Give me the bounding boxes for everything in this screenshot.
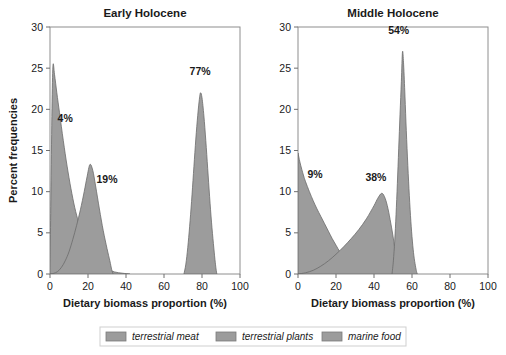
- y-tick-label: 15: [279, 144, 291, 156]
- y-tick-label: 30: [31, 21, 43, 33]
- y-tick-label: 30: [279, 21, 291, 33]
- y-tick-label: 25: [31, 62, 43, 74]
- legend-swatch-terrestrial-meat: [106, 332, 126, 341]
- y-tick-label: 20: [31, 103, 43, 115]
- legend-label-marine-food: marine food: [348, 331, 401, 342]
- legend-item-marine-food[interactable]: marine food: [322, 331, 401, 342]
- x-tick-label: 80: [444, 280, 456, 292]
- x-tick-label: 80: [196, 280, 208, 292]
- legend-item-terrestrial-meat[interactable]: terrestrial meat: [106, 331, 200, 342]
- panel-title-1: Early Holocene: [103, 7, 186, 19]
- y-tick-label: 25: [279, 62, 291, 74]
- y-tick-label: 5: [285, 226, 291, 238]
- data-label-terrestrial-meat: 4%: [58, 112, 74, 124]
- data-label-terrestrial-plants: 19%: [96, 173, 118, 185]
- legend-label-terrestrial-meat: terrestrial meat: [132, 331, 200, 342]
- series-group-2: [298, 51, 417, 274]
- panel-2: Middle Holocene051015202530020406080100D…: [279, 7, 497, 309]
- series-area-marine-food: [184, 93, 217, 274]
- data-label-marine-food: 77%: [190, 65, 212, 77]
- legend: terrestrial meatterrestrial plantsmarine…: [100, 327, 406, 346]
- data-label-terrestrial-meat: 9%: [308, 168, 324, 180]
- x-tick-label: 40: [120, 280, 132, 292]
- x-tick-label: 0: [295, 280, 301, 292]
- y-tick-label: 0: [285, 268, 291, 280]
- legend-label-terrestrial-plants: terrestrial plants: [242, 331, 313, 342]
- x-tick-label: 40: [368, 280, 380, 292]
- x-tick-label: 20: [330, 280, 342, 292]
- x-axis-title-2: Dietary biomass proportion (%): [311, 297, 475, 309]
- y-tick-label: 5: [37, 226, 43, 238]
- legend-swatch-marine-food: [322, 332, 342, 341]
- legend-swatch-terrestrial-plants: [216, 332, 236, 341]
- y-tick-label: 20: [279, 103, 291, 115]
- panel-title-2: Middle Holocene: [347, 7, 438, 19]
- legend-item-terrestrial-plants[interactable]: terrestrial plants: [216, 331, 313, 342]
- series-area-marine-food: [392, 51, 417, 274]
- y-axis-title: Percent frequencies: [7, 98, 19, 203]
- y-tick-label: 15: [31, 144, 43, 156]
- x-tick-label: 60: [158, 280, 170, 292]
- x-tick-label: 20: [82, 280, 94, 292]
- x-tick-label: 100: [479, 280, 497, 292]
- x-tick-label: 60: [406, 280, 418, 292]
- x-tick-label: 100: [231, 280, 249, 292]
- series-group-1: [50, 64, 217, 274]
- data-label-marine-food: 54%: [388, 24, 410, 36]
- x-axis-title-1: Dietary biomass proportion (%): [63, 297, 227, 309]
- panel-1: Early Holocene051015202530020406080100Di…: [31, 7, 249, 309]
- y-tick-label: 0: [37, 268, 43, 280]
- data-label-terrestrial-plants: 38%: [365, 171, 387, 183]
- y-tick-label: 10: [31, 185, 43, 197]
- dual-panel-distribution-chart: Early Holocene051015202530020406080100Di…: [0, 0, 506, 355]
- y-tick-label: 10: [279, 185, 291, 197]
- x-tick-label: 0: [47, 280, 53, 292]
